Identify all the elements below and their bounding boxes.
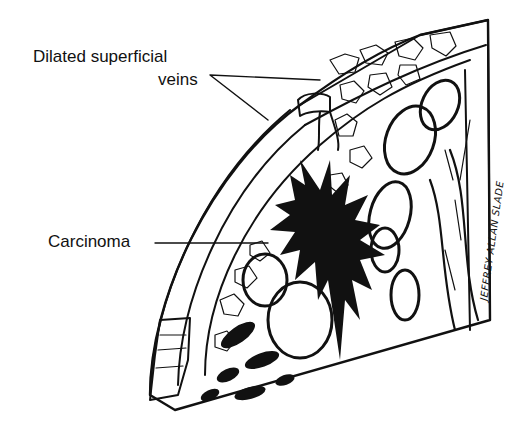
- label-carcinoma: Carcinoma: [48, 232, 130, 252]
- label-dilated-superficial-veins: Dilated superficial: [33, 47, 167, 67]
- label-veins-line2: veins: [158, 70, 198, 90]
- carcinoma-mass: [270, 160, 385, 360]
